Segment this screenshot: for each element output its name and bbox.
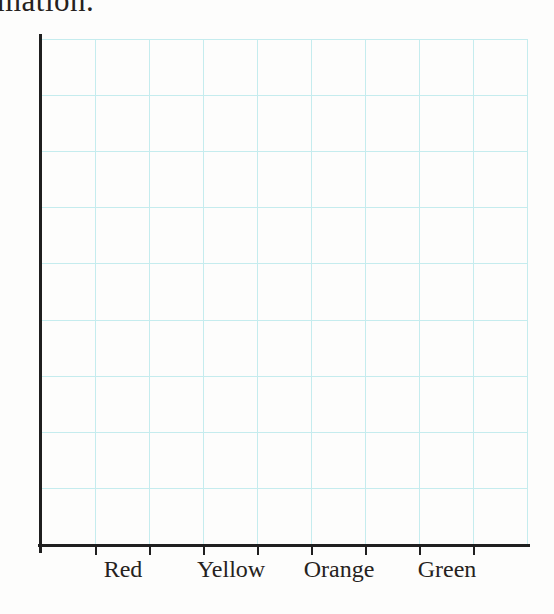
grid-cell xyxy=(420,432,474,488)
grid-cell xyxy=(312,39,366,95)
grid-cell xyxy=(312,376,366,432)
x-axis-tick xyxy=(95,546,97,555)
grid-cell xyxy=(366,151,420,207)
grid-cell xyxy=(474,432,528,488)
grid-cell xyxy=(312,151,366,207)
grid-cell xyxy=(366,95,420,151)
grid-cell xyxy=(42,263,96,319)
grid-cell xyxy=(204,39,258,95)
grid-cell xyxy=(204,376,258,432)
grid-cell xyxy=(96,39,150,95)
grid-cell xyxy=(420,488,474,544)
grid-cell xyxy=(204,207,258,263)
grid-cell xyxy=(420,151,474,207)
grid-cell xyxy=(150,151,204,207)
x-axis-tick xyxy=(203,546,205,555)
x-axis-label: Green xyxy=(418,556,477,583)
grid-cell xyxy=(150,207,204,263)
worksheet-page: mation. RedYellowOrangeGreen xyxy=(0,0,554,614)
grid-cell xyxy=(312,432,366,488)
grid-cell xyxy=(96,488,150,544)
grid-cell xyxy=(420,263,474,319)
grid-cell xyxy=(474,263,528,319)
grid-cell xyxy=(150,376,204,432)
grid-cell xyxy=(258,95,312,151)
grid-cell xyxy=(366,376,420,432)
grid-cell xyxy=(96,207,150,263)
grid-cell xyxy=(420,320,474,376)
grid-cell xyxy=(312,263,366,319)
grid-cell xyxy=(96,95,150,151)
grid-cell xyxy=(420,207,474,263)
grid-cell xyxy=(258,320,312,376)
x-axis-tick xyxy=(419,546,421,555)
x-axis-label: Red xyxy=(104,556,143,583)
grid-cell xyxy=(258,263,312,319)
grid-cell xyxy=(258,39,312,95)
grid-cell xyxy=(366,39,420,95)
grid-cell xyxy=(258,432,312,488)
grid-cell xyxy=(204,320,258,376)
grid-cell xyxy=(366,320,420,376)
x-axis-label: Yellow xyxy=(197,556,265,583)
grid-cell xyxy=(474,376,528,432)
grid-cell xyxy=(42,95,96,151)
grid-cell xyxy=(96,320,150,376)
grid-cell xyxy=(42,432,96,488)
grid-cell xyxy=(204,151,258,207)
grid-cell xyxy=(474,95,528,151)
grid-cell xyxy=(96,432,150,488)
grid-cell xyxy=(420,95,474,151)
grid-cell xyxy=(96,263,150,319)
grid-cell xyxy=(150,488,204,544)
grid-cell xyxy=(42,488,96,544)
x-axis-tick xyxy=(365,546,367,555)
grid-cell xyxy=(474,320,528,376)
grid-cell xyxy=(150,432,204,488)
grid-cell xyxy=(42,207,96,263)
grid-cell xyxy=(420,39,474,95)
grid-cell xyxy=(366,263,420,319)
x-axis-tick xyxy=(149,546,151,555)
x-axis-line xyxy=(38,544,530,547)
grid-cell xyxy=(420,376,474,432)
x-axis-label: Orange xyxy=(304,556,375,583)
x-axis-tick xyxy=(311,546,313,555)
grid-cell xyxy=(474,488,528,544)
grid-cell xyxy=(312,95,366,151)
grid-cell xyxy=(42,39,96,95)
grid-cell xyxy=(42,376,96,432)
grid-cell xyxy=(312,207,366,263)
grid-cell xyxy=(258,151,312,207)
grid-cell xyxy=(204,95,258,151)
grid-cell xyxy=(366,432,420,488)
x-axis-tick xyxy=(473,546,475,555)
grid-cell xyxy=(366,207,420,263)
grid-cell xyxy=(366,488,420,544)
grid-cell xyxy=(204,263,258,319)
grid-cell xyxy=(96,151,150,207)
grid-cell xyxy=(474,39,528,95)
grid-cell xyxy=(312,320,366,376)
grid-cell xyxy=(150,320,204,376)
grid-cell xyxy=(150,39,204,95)
empty-bar-chart: RedYellowOrangeGreen xyxy=(0,0,554,614)
grid-cell xyxy=(474,207,528,263)
y-axis-line xyxy=(39,34,42,553)
grid-cell xyxy=(150,263,204,319)
grid-cell xyxy=(474,151,528,207)
grid-cell xyxy=(204,432,258,488)
grid-cell xyxy=(258,376,312,432)
grid-cell xyxy=(258,207,312,263)
grid-cell xyxy=(42,151,96,207)
grid-cell xyxy=(42,320,96,376)
grid-cell xyxy=(258,488,312,544)
grid-cell xyxy=(96,376,150,432)
grid-cell xyxy=(150,95,204,151)
grid-cell xyxy=(312,488,366,544)
x-axis-tick xyxy=(257,546,259,555)
plot-grid xyxy=(42,39,528,544)
grid-cell xyxy=(204,488,258,544)
